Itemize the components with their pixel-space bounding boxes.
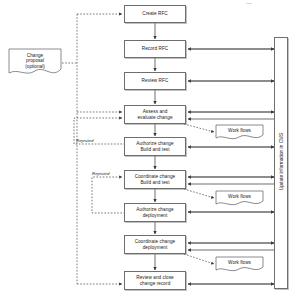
process-box-label: Record RFC bbox=[142, 46, 169, 51]
process-box-label: Coordinate change Build and test bbox=[135, 174, 175, 185]
work-flows-note-1[interactable] bbox=[215, 124, 264, 141]
process-box-review-close[interactable]: Review and close change record bbox=[124, 271, 186, 290]
process-box-label: Coordinate change deployment bbox=[135, 239, 175, 250]
process-box-review-rfc[interactable]: Review RFC bbox=[124, 72, 186, 90]
scan-artifact bbox=[246, 3, 252, 4]
process-box-coordinate-build[interactable]: Coordinate change Build and test bbox=[124, 170, 186, 189]
document-icon bbox=[216, 125, 263, 139]
edge-label-rejected-1: Rejected bbox=[76, 138, 93, 143]
cms-bar-label: Update information in CMS bbox=[279, 74, 284, 250]
process-box-authorize-build[interactable]: Authorize change Build and test bbox=[124, 137, 186, 156]
process-box-assess-evaluate[interactable]: Assess and evaluate change bbox=[124, 105, 186, 124]
work-flows-note-3[interactable] bbox=[215, 256, 264, 273]
process-box-label: Create RFC bbox=[142, 11, 168, 16]
work-flows-note-2[interactable] bbox=[215, 190, 264, 207]
edge-coordinate-build-to-work-flows-2 bbox=[184, 189, 214, 198]
document-icon bbox=[9, 49, 61, 73]
change-management-flowchart: Create RFC Record RFC Review RFC Assess … bbox=[0, 0, 297, 303]
document-icon bbox=[216, 191, 263, 205]
change-proposal-note[interactable] bbox=[8, 48, 62, 78]
edge-assess-to-work-flows-1 bbox=[184, 124, 214, 132]
edge-label-rejected-2: Rejected bbox=[92, 171, 109, 176]
process-box-label: Review and close change record bbox=[136, 275, 174, 286]
process-box-label: Authorize change deployment bbox=[136, 207, 173, 218]
process-box-create-rfc[interactable]: Create RFC bbox=[124, 5, 186, 23]
process-box-label: Review RFC bbox=[142, 78, 169, 83]
process-box-record-rfc[interactable]: Record RFC bbox=[124, 40, 186, 58]
process-box-authorize-deployment[interactable]: Authorize change deployment bbox=[124, 203, 186, 222]
process-box-label: Assess and evaluate change bbox=[137, 109, 172, 120]
edge-coordinate-deploy-to-work-flows-3 bbox=[184, 254, 214, 264]
document-icon bbox=[216, 257, 263, 271]
process-box-coordinate-deployment[interactable]: Coordinate change deployment bbox=[124, 235, 186, 254]
process-box-label: Authorize change Build and test bbox=[136, 141, 173, 152]
